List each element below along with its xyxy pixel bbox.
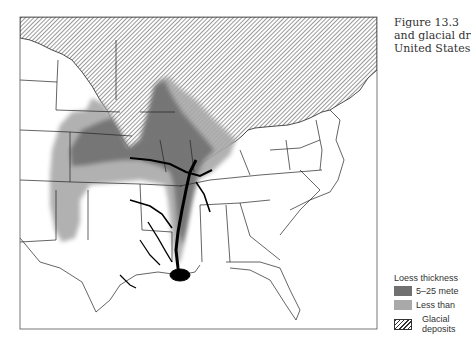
legend-label: Less than	[416, 300, 455, 310]
map-legend: Loess thickness 5–25 mete Less than Glac…	[394, 273, 459, 338]
legend-label-line: deposits	[422, 324, 456, 334]
caption-line: and glacial dr	[394, 29, 471, 42]
caption-line: Figure 13.3	[394, 16, 471, 29]
caption-line: United States	[394, 42, 471, 55]
legend-item-glacial: Glacial deposits	[394, 314, 459, 334]
light-grey-swatch	[394, 300, 412, 310]
legend-item-thick: 5–25 mete	[394, 286, 459, 296]
legend-label: 5–25 mete	[416, 286, 459, 296]
legend-label: Glacial deposits	[422, 314, 456, 334]
legend-label-line: Glacial	[422, 314, 450, 324]
figure-caption: Figure 13.3 and glacial dr United States	[394, 16, 471, 55]
legend-title: Loess thickness	[394, 273, 459, 283]
dark-grey-swatch	[394, 286, 412, 296]
legend-item-thin: Less than	[394, 300, 459, 310]
hatch-swatch	[394, 319, 412, 330]
